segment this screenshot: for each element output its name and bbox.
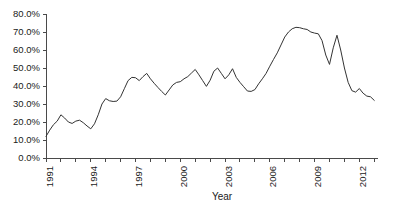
x-tick-label: 2009 xyxy=(312,166,323,187)
y-tick-label: 20.0% xyxy=(13,116,40,127)
y-tick-label: 0.0% xyxy=(18,152,40,163)
y-axis-group: 0.0%10.0%20.0%30.0%40.0%50.0%60.0%70.0%8… xyxy=(13,8,46,163)
x-axis-title: Year xyxy=(212,191,233,202)
y-tick-label: 70.0% xyxy=(13,26,40,37)
x-tick-label: 1997 xyxy=(133,166,144,187)
line-chart-figure: 0.0%10.0%20.0%30.0%40.0%50.0%60.0%70.0%8… xyxy=(0,0,396,213)
y-axis-tick-labels: 0.0%10.0%20.0%30.0%40.0%50.0%60.0%70.0%8… xyxy=(13,8,40,163)
y-tick-label: 30.0% xyxy=(13,98,40,109)
y-tick-label: 80.0% xyxy=(13,8,40,19)
x-tick-label: 2012 xyxy=(357,166,368,187)
chart-plot-area: 0.0%10.0%20.0%30.0%40.0%50.0%60.0%70.0%8… xyxy=(0,0,396,213)
y-tick-label: 50.0% xyxy=(13,62,40,73)
x-axis-group: 19911994199720002003200620092012 xyxy=(44,158,378,187)
y-tick-label: 60.0% xyxy=(13,44,40,55)
x-tick-label: 2000 xyxy=(178,166,189,187)
y-tick-label: 40.0% xyxy=(13,80,40,91)
x-tick-label: 1991 xyxy=(44,166,55,187)
x-axis-tick-labels: 19911994199720002003200620092012 xyxy=(44,166,368,187)
data-series-line xyxy=(46,27,374,136)
y-tick-label: 10.0% xyxy=(13,134,40,145)
x-axis-ticks xyxy=(46,158,374,162)
x-tick-label: 2003 xyxy=(223,166,234,187)
x-tick-label: 2006 xyxy=(267,166,278,187)
x-tick-label: 1994 xyxy=(88,166,99,187)
